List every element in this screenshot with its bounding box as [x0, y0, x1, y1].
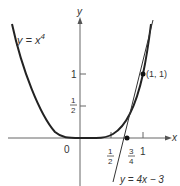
x-tick-half-num: 1: [108, 147, 113, 156]
y-tick-label-1: 1: [71, 69, 77, 80]
point-three-quarters: [125, 136, 130, 141]
y-axis-arrow-icon: [78, 17, 83, 24]
point-label: (1, 1): [146, 69, 167, 79]
tangent-label: y = 4x − 3: [119, 174, 164, 185]
x-tick-label-1: 1: [140, 146, 146, 157]
x-axis-arrow-icon: [165, 136, 172, 141]
x-tick-half-den: 2: [108, 157, 113, 166]
y-tick-half-num: 1: [71, 96, 76, 105]
y-tick-half-den: 2: [71, 106, 76, 115]
x-tick-3-4-num: 3: [129, 147, 134, 156]
curve-label: y = x4: [16, 32, 46, 46]
point-1-1: [141, 72, 146, 77]
y-axis-label: y: [76, 6, 83, 17]
origin-label: 0: [64, 144, 70, 155]
x-tick-3-4-den: 4: [129, 157, 134, 166]
graph: y = x4 y x 0 (1, 1) y = 4x − 3 1 1 2 1 2…: [0, 0, 180, 186]
x-axis-label: x: [171, 132, 178, 143]
